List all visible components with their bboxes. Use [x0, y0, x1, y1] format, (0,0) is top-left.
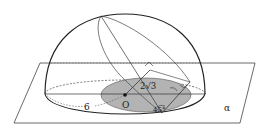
diagram-canvas: 6 O 2√3 45° α [0, 0, 272, 135]
label-distance: 2√3 [140, 81, 156, 91]
hemisphere-diagram: 6 O 2√3 45° α [0, 0, 272, 135]
label-plane-alpha: α [224, 103, 230, 113]
label-angle: 45° [153, 106, 165, 114]
label-center: O [122, 100, 129, 110]
label-radius: 6 [84, 102, 90, 112]
center-point-o [123, 93, 127, 97]
